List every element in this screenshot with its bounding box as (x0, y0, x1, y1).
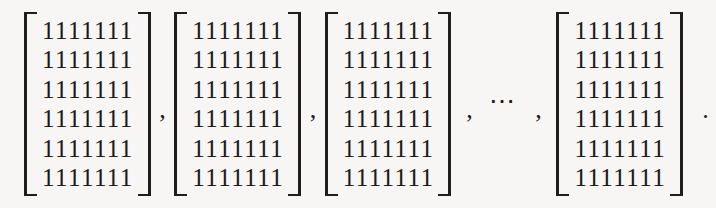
matrix-row: 1111111 (191, 136, 284, 161)
matrix-row: 1111111 (191, 18, 284, 43)
ellipsis-separator-group: , ⋯ , (451, 91, 556, 117)
matrix-row: 1111111 (191, 106, 284, 131)
left-bracket-icon (24, 12, 37, 196)
right-bracket-icon (138, 12, 151, 196)
left-bracket-icon (556, 12, 569, 196)
ellipsis-icon: ⋯ (487, 89, 520, 115)
matrix-row: 1111111 (573, 136, 666, 161)
matrix-row: 1111111 (573, 47, 666, 72)
matrix-row: 1111111 (191, 165, 284, 190)
matrix-row: 1111111 (191, 77, 284, 102)
matrix-row: 1111111 (41, 18, 134, 43)
matrix-row: 1111111 (41, 106, 134, 131)
matrix-row: 1111111 (342, 18, 435, 43)
left-bracket-icon (174, 12, 187, 196)
matrix-row: 1111111 (573, 165, 666, 190)
matrix-4-rows: 1111111 1111111 1111111 1111111 1111111 … (571, 12, 668, 196)
matrix-3: 1111111 1111111 1111111 1111111 1111111 … (325, 12, 452, 196)
matrix-row: 1111111 (573, 106, 666, 131)
matrix-row: 1111111 (41, 47, 134, 72)
matrix-2-rows: 1111111 1111111 1111111 1111111 1111111 … (189, 12, 286, 196)
matrix-list-expression: 1111111 1111111 1111111 1111111 1111111 … (0, 0, 716, 208)
matrix-row: 1111111 (342, 106, 435, 131)
matrix-1-rows: 1111111 1111111 1111111 1111111 1111111 … (39, 12, 136, 196)
matrix-row: 1111111 (342, 47, 435, 72)
matrix-row: 1111111 (41, 136, 134, 161)
matrix-row: 1111111 (573, 18, 666, 43)
matrix-1: 1111111 1111111 1111111 1111111 1111111 … (24, 12, 151, 196)
separator-comma: , (301, 97, 325, 123)
right-bracket-icon (438, 12, 451, 196)
matrix-row: 1111111 (191, 47, 284, 72)
matrix-4: 1111111 1111111 1111111 1111111 1111111 … (556, 12, 683, 196)
left-bracket-icon (325, 12, 338, 196)
right-bracket-icon (670, 12, 683, 196)
matrix-row: 1111111 (41, 165, 134, 190)
sentence-period: . (683, 97, 716, 123)
matrix-2: 1111111 1111111 1111111 1111111 1111111 … (174, 12, 301, 196)
matrix-row: 1111111 (342, 165, 435, 190)
separator-comma: , (451, 97, 487, 123)
matrix-row: 1111111 (342, 77, 435, 102)
matrix-3-rows: 1111111 1111111 1111111 1111111 1111111 … (340, 12, 437, 196)
matrix-row: 1111111 (41, 77, 134, 102)
separator-comma: , (520, 97, 556, 123)
matrix-row: 1111111 (342, 136, 435, 161)
separator-comma: , (151, 97, 175, 123)
right-bracket-icon (288, 12, 301, 196)
matrix-row: 1111111 (573, 77, 666, 102)
